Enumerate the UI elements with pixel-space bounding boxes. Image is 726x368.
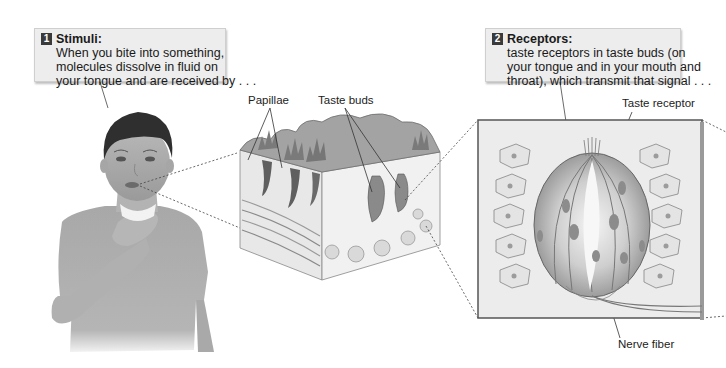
label-nerve-fiber: Nerve fiber: [618, 338, 674, 350]
callout-text-line: throat), which transmit that signal . . …: [492, 74, 674, 88]
callout-text-line: your tongue and in your mouth and: [492, 60, 674, 74]
label-papillae: Papillae: [248, 94, 289, 106]
boy-illustration: [52, 112, 214, 352]
callout-text-line: molecules dissolve in fluid on: [41, 60, 219, 74]
label-taste-buds: Taste buds: [318, 94, 374, 106]
callout-receptors: 2 Receptors: taste receptors in taste bu…: [485, 28, 681, 82]
step-number-badge: 1: [41, 33, 52, 45]
callout-text-line: your tongue and are received by . . .: [41, 74, 219, 88]
callout-title: Receptors:: [507, 32, 572, 46]
callout-text-line: When you bite into something,: [41, 46, 219, 60]
callout-title: Stimuli:: [56, 32, 102, 46]
step-number-badge: 2: [492, 33, 503, 45]
zoom-line-exit-top: [702, 120, 726, 132]
taste-bud-inset: [478, 120, 704, 320]
zoom-line-exit-bottom: [702, 316, 726, 318]
callout-text-line: taste receptors in taste buds (on: [492, 46, 674, 60]
tongue-cross-section: [240, 114, 440, 280]
callout-stimuli: 1 Stimuli: When you bite into something,…: [34, 28, 226, 82]
label-taste-receptor: Taste receptor: [622, 97, 695, 109]
